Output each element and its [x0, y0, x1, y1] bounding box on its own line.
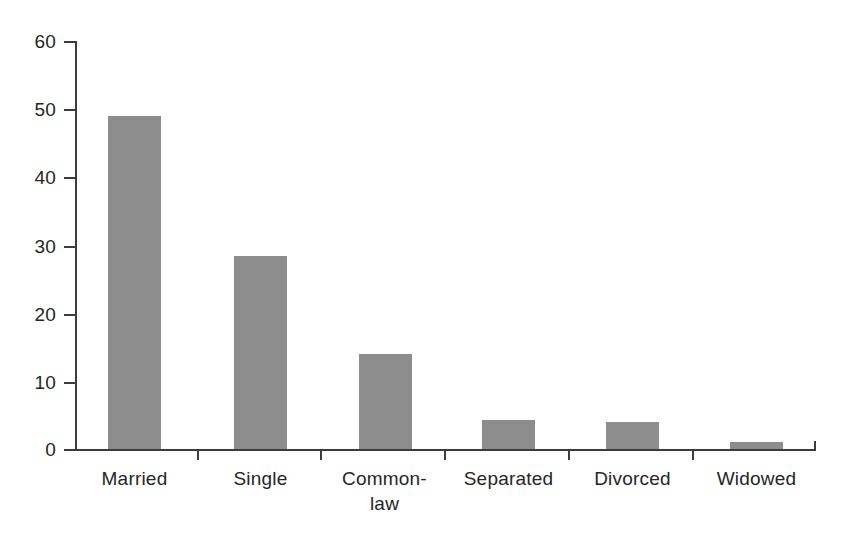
y-tick-label-40-wrap: 40	[8, 168, 56, 187]
y-tick-60	[64, 41, 76, 43]
y-tick-30	[64, 246, 76, 248]
y-tick-label-60-wrap: 60	[8, 32, 56, 51]
y-tick-label-30: 30	[16, 237, 56, 256]
x-tick-separator-1	[197, 450, 199, 460]
x-label-common-law: Common- law	[324, 466, 445, 516]
y-tick-label-10: 10	[16, 373, 56, 392]
bar-married[interactable]	[108, 116, 161, 449]
x-tick-separator-4	[568, 450, 570, 460]
x-label-single: Single	[200, 466, 321, 491]
bar-chart-figure: 60 50 40 30 20 10 0	[0, 0, 850, 544]
bar-common-law[interactable]	[359, 354, 412, 449]
y-tick-label-60: 60	[16, 32, 56, 51]
y-tick-label-10-wrap: 10	[8, 373, 56, 392]
bar-widowed[interactable]	[730, 442, 783, 449]
y-tick-label-50: 50	[16, 100, 56, 119]
y-tick-50	[64, 109, 76, 111]
x-label-separated: Separated	[448, 466, 569, 491]
y-tick-label-50-wrap: 50	[8, 100, 56, 119]
x-label-widowed: Widowed	[696, 466, 817, 491]
x-tick-separator-2	[320, 450, 322, 460]
bar-divorced[interactable]	[606, 422, 659, 449]
y-tick-label-20-wrap: 20	[8, 305, 56, 324]
y-tick-0	[64, 449, 76, 451]
y-tick-label-20: 20	[16, 305, 56, 324]
plot-area: 60 50 40 30 20 10 0	[0, 0, 850, 544]
y-tick-label-30-wrap: 30	[8, 237, 56, 256]
y-tick-label-0-wrap: 0	[8, 440, 56, 459]
x-axis-end-tick	[814, 441, 816, 450]
bar-single[interactable]	[234, 256, 287, 449]
y-tick-label-40: 40	[16, 168, 56, 187]
y-tick-40	[64, 177, 76, 179]
x-tick-separator-3	[444, 450, 446, 460]
y-tick-20	[64, 314, 76, 316]
y-tick-label-0: 0	[16, 440, 56, 459]
x-label-divorced: Divorced	[572, 466, 693, 491]
x-label-married: Married	[74, 466, 195, 491]
x-tick-separator-5	[692, 450, 694, 460]
y-tick-10	[64, 382, 76, 384]
bar-separated[interactable]	[482, 420, 535, 449]
